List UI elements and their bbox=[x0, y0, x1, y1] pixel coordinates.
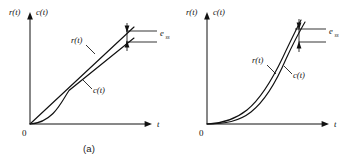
origin-label-a: 0 bbox=[22, 128, 27, 138]
leader-reference-a bbox=[86, 45, 95, 54]
x-axis-label-b: t bbox=[334, 119, 337, 129]
ess-label-a: e bbox=[160, 28, 164, 38]
panel-b-plot: r(t) c(t) e ss r(t) c(t) t 0 bbox=[179, 0, 358, 164]
x-axis-arrowhead-a bbox=[145, 121, 152, 127]
figure-root: r(t) c(t) e ss r(t) c(t) t 0 (a) bbox=[0, 0, 358, 164]
curve-label-output-b: c(t) bbox=[293, 70, 305, 80]
curve-label-reference-a: r(t) bbox=[71, 35, 83, 45]
curve-output-a bbox=[30, 38, 134, 124]
panel-a-plot: r(t) c(t) e ss r(t) c(t) t 0 bbox=[0, 0, 179, 164]
curve-reference-b bbox=[207, 20, 301, 124]
y-axis-arrowhead-a bbox=[27, 12, 33, 19]
ess-subscript-b: ss bbox=[335, 32, 339, 38]
curve-output-b bbox=[207, 22, 305, 124]
curve-label-output-a: c(t) bbox=[93, 85, 105, 95]
curve-label-reference-b: r(t) bbox=[252, 55, 264, 65]
panel-a: r(t) c(t) e ss r(t) c(t) t 0 (a) bbox=[0, 0, 179, 164]
origin-label-b: 0 bbox=[199, 128, 204, 138]
y-axis-label-left-b: r(t) bbox=[186, 7, 198, 17]
leader-reference-b bbox=[267, 65, 276, 74]
panel-b: r(t) c(t) e ss r(t) c(t) t 0 (b) bbox=[179, 0, 358, 164]
x-axis-label-a: t bbox=[157, 119, 160, 129]
y-axis-arrowhead-b bbox=[204, 12, 210, 19]
y-axis-label-right-b: c(t) bbox=[213, 7, 225, 17]
ess-subscript-a: ss bbox=[166, 34, 170, 40]
x-axis-arrowhead-b bbox=[322, 121, 329, 127]
ess-label-b: e bbox=[329, 26, 333, 36]
y-axis-label-right-a: c(t) bbox=[36, 7, 48, 17]
leader-output-a bbox=[83, 80, 92, 89]
caption-a: (a) bbox=[69, 143, 109, 154]
y-axis-label-left-a: r(t) bbox=[9, 7, 21, 17]
ess-arrowhead-up-a bbox=[125, 41, 130, 48]
leader-output-b bbox=[284, 66, 292, 74]
